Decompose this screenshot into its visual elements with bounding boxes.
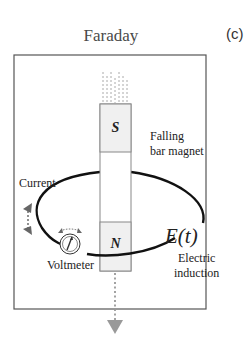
panel-label: (c) [226, 25, 244, 42]
wire-loop-back-right [131, 172, 204, 223]
emf-label: E(t) [165, 224, 198, 249]
north-pole-label: N [100, 236, 131, 252]
induction-label-line2: induction [174, 266, 219, 280]
magnet-caption-line1: Falling [150, 129, 184, 143]
magnet-caption-line2: bar magnet [150, 144, 204, 158]
falling-direction-arrow-icon [107, 273, 123, 334]
voltmeter-icon [58, 228, 82, 254]
motion-trail-icon [103, 72, 127, 103]
voltmeter-label: Voltmeter [47, 258, 94, 272]
current-label: Current [19, 176, 56, 190]
south-pole-label: S [100, 120, 131, 136]
current-direction-arrow-icon [23, 203, 32, 235]
faraday-diagram [0, 0, 250, 349]
figure-title: Faraday [0, 26, 222, 46]
induction-label-line1: Electric [178, 251, 215, 265]
